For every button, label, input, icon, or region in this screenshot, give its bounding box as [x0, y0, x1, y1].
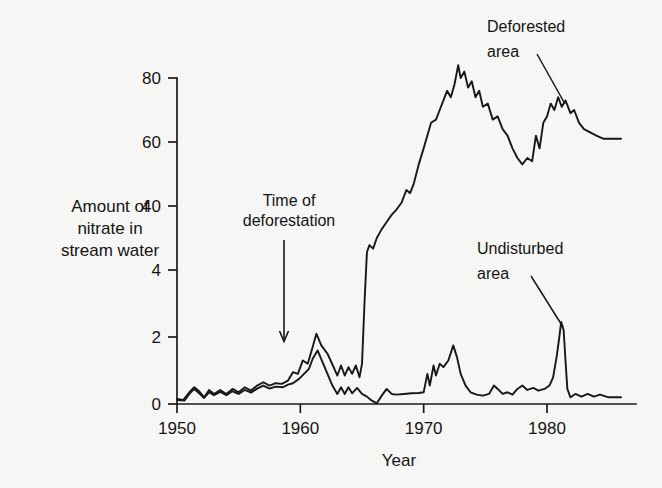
- x-tick-label-1970: 1970: [405, 419, 443, 438]
- nitrate-line-chart: 024406080 1950196019701980 Amount of nit…: [0, 0, 662, 488]
- annotation-undisturbed-area-line-1: Undisturbed: [477, 240, 563, 257]
- y-tick-label-0: 0: [152, 395, 161, 414]
- series-line-deforested-area: [177, 65, 621, 400]
- y-tick-label-4: 4: [152, 261, 161, 280]
- x-tick-label-1950: 1950: [158, 419, 196, 438]
- x-tick-label-1980: 1980: [528, 419, 566, 438]
- annotation-undisturbed-area-line-2: area: [477, 265, 509, 282]
- y-tick-label-60: 60: [142, 133, 161, 152]
- x-axis-title: Year: [382, 451, 417, 470]
- y-axis-ticks: [168, 78, 177, 404]
- annotation-deforested-area-line-2: area: [487, 43, 519, 60]
- x-axis-ticks: [177, 404, 547, 413]
- annotation-time-of-deforestation-line-2: deforestation: [243, 212, 336, 229]
- y-axis-title-line-2: nitrate in: [77, 219, 142, 238]
- y-axis-title-line-1: Amount of: [71, 197, 149, 216]
- series-line-undisturbed-area: [177, 322, 621, 403]
- y-tick-label-2: 2: [152, 328, 161, 347]
- x-tick-label-1960: 1960: [281, 419, 319, 438]
- undisturbed-area-leader-line: [531, 276, 563, 327]
- annotation-time-of-deforestation-line-1: Time of: [263, 192, 316, 209]
- y-tick-label-80: 80: [142, 69, 161, 88]
- annotation-deforested-area-line-1: Deforested: [487, 18, 565, 35]
- deforested-area-leader-line: [537, 54, 565, 104]
- y-axis-title-line-3: stream water: [61, 241, 160, 260]
- figure-root: 024406080 1950196019701980 Amount of nit…: [0, 0, 662, 488]
- x-axis-tick-labels: 1950196019701980: [158, 419, 566, 438]
